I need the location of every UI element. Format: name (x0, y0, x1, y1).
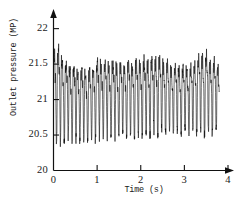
y-tick-label: 20.5 (0, 128, 48, 139)
x-tick-label: 3 (169, 174, 199, 185)
x-tick-label: 2 (126, 174, 156, 185)
x-tick-label: 0 (39, 174, 69, 185)
x-axis-title: Time (s) (104, 185, 184, 195)
pressure-time-chart: 2020.52121.522 01234 Outlet pressure (MP… (0, 0, 245, 207)
x-tick-label: 4 (213, 174, 243, 185)
y-axis-arrow-icon (50, 9, 57, 18)
pressure-trace (54, 44, 220, 147)
pressure-trace-path (54, 44, 220, 147)
x-tick-label: 1 (82, 174, 112, 185)
x-tick-marks (97, 165, 228, 171)
y-tick-label: 21 (0, 93, 48, 104)
axis-group (50, 9, 234, 174)
y-tick-label: 22 (0, 22, 48, 33)
y-tick-label: 21.5 (0, 57, 48, 68)
y-axis-title: Outlet pressure (MP) (9, 7, 19, 127)
